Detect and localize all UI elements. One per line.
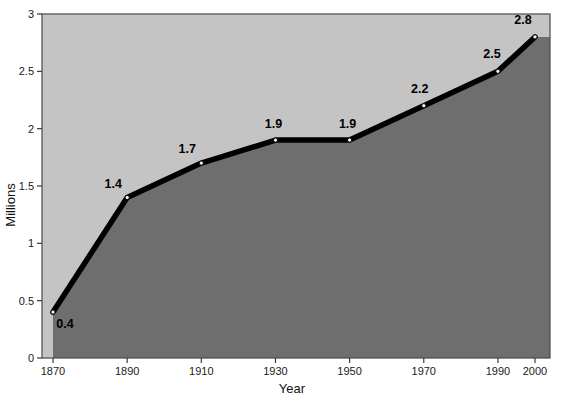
data-point-label: 0.4 [56, 317, 73, 331]
data-point-label: 1.9 [339, 117, 356, 131]
y-axis-tick-label: 3 [28, 8, 34, 20]
x-axis-tick-label: 2000 [523, 365, 547, 377]
data-point-marker [273, 138, 277, 142]
x-axis-tick-label: 1970 [412, 365, 436, 377]
y-axis-title: Millions [3, 183, 18, 227]
y-axis-tick-label: 2.5 [19, 65, 34, 77]
data-point-marker [199, 161, 203, 165]
data-point-marker [125, 195, 129, 199]
y-axis-tick-label: 0 [28, 352, 34, 364]
y-axis-tick-label: 2 [28, 123, 34, 135]
data-point-marker [422, 104, 426, 108]
data-point-label: 1.9 [265, 117, 282, 131]
y-axis-tick-label: 1 [28, 237, 34, 249]
x-axis-tick-label: 1990 [486, 365, 510, 377]
x-axis-tick-label: 1910 [189, 365, 213, 377]
x-axis-title: Year [279, 381, 306, 396]
y-axis-tick-label: 1.5 [19, 180, 34, 192]
x-axis-tick-label: 1930 [263, 365, 287, 377]
data-point-marker [51, 310, 55, 314]
x-axis-tick-label: 1890 [115, 365, 139, 377]
data-point-label: 2.5 [483, 47, 500, 61]
data-point-label: 1.7 [179, 142, 196, 156]
data-point-label: 2.2 [411, 82, 428, 96]
y-axis-tick-label: 0.5 [19, 295, 34, 307]
x-axis-tick-label: 1950 [337, 365, 361, 377]
x-axis-tick-label: 1870 [41, 365, 65, 377]
data-point-marker [496, 69, 500, 73]
area-chart: 32.521.510.50 18701890191019301950197019… [0, 0, 565, 403]
data-point-label: 2.8 [514, 13, 531, 27]
data-point-marker [533, 35, 537, 39]
data-point-label: 1.4 [105, 177, 122, 191]
data-point-marker [348, 138, 352, 142]
chart-container: 32.521.510.50 18701890191019301950197019… [0, 0, 565, 403]
